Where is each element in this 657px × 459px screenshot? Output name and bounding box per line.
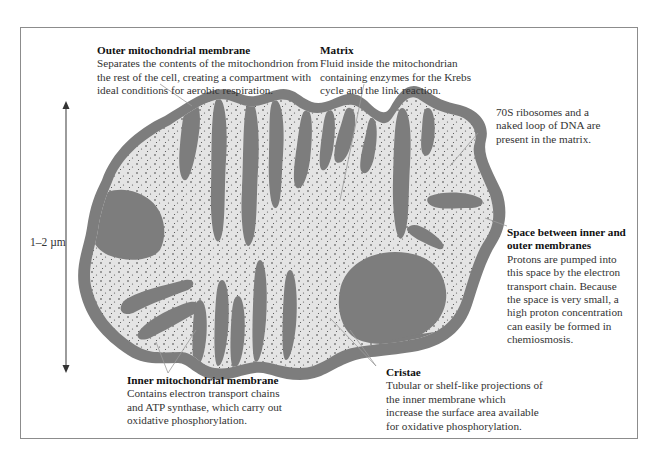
label-ribosomes-dna: 70S ribosomes and a naked loop of DNA ar… (496, 106, 636, 146)
label-intermembrane-space: Space between inner and outer membranes … (507, 226, 639, 347)
label-title: Space between inner and outer membranes (507, 226, 639, 253)
label-body: Contains electron transport chains and A… (127, 387, 347, 427)
label-matrix: Matrix Fluid inside the mitochondrian co… (320, 44, 510, 98)
scale-label: 1–2 µm (30, 236, 66, 248)
label-body: 70S ribosomes and a naked loop of DNA ar… (496, 106, 636, 146)
label-title: Cristae (386, 366, 606, 379)
label-title: Outer mitochondrial membrane (97, 44, 357, 57)
label-inner-membrane: Inner mitochondrial membrane Contains el… (127, 374, 347, 428)
label-cristae: Cristae Tubular or shelf-like projection… (386, 366, 606, 433)
label-title: Inner mitochondrial membrane (127, 374, 347, 387)
label-body: Separates the contents of the mitochondr… (97, 57, 357, 97)
label-body: Protons are pumped into this space by th… (507, 253, 639, 347)
label-body: Fluid inside the mitochondrian containin… (320, 57, 510, 97)
label-title: Matrix (320, 44, 510, 57)
label-outer-membrane: Outer mitochondrial membrane Separates t… (97, 44, 357, 98)
label-body: Tubular or shelf-like projections of the… (386, 379, 606, 433)
